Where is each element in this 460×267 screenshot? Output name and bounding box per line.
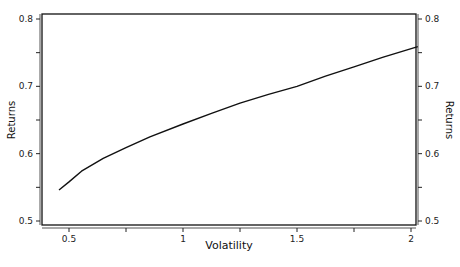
y-axis-right: 0.50.60.70.8 bbox=[418, 14, 440, 226]
y-tick-label-right: 0.6 bbox=[425, 149, 440, 159]
x-tick-label: 2 bbox=[408, 234, 414, 244]
y-tick-label-left: 0.5 bbox=[19, 216, 33, 226]
y-tick-label-left: 0.8 bbox=[19, 14, 34, 24]
y-tick-label-right: 0.5 bbox=[425, 216, 439, 226]
x-tick-label: 1 bbox=[180, 234, 186, 244]
y-tick-label-right: 0.7 bbox=[425, 81, 439, 91]
y-tick-label-right: 0.8 bbox=[425, 14, 440, 24]
y-axis-title-right: Returns bbox=[444, 101, 455, 139]
x-tick-label: 1.5 bbox=[290, 234, 304, 244]
frontier-line bbox=[59, 47, 418, 190]
plot-frame bbox=[42, 14, 416, 225]
y-tick-label-left: 0.6 bbox=[19, 149, 34, 159]
y-axis-title-left: Returns bbox=[6, 101, 17, 139]
chart-canvas: 0.511.52 0.50.60.70.8 0.50.60.70.8 Volat… bbox=[0, 0, 460, 267]
y-axis-left: 0.50.60.70.8 bbox=[19, 14, 40, 226]
x-tick-label: 0.5 bbox=[62, 234, 76, 244]
x-axis-title: Volatility bbox=[205, 239, 253, 252]
y-tick-label-left: 0.7 bbox=[19, 81, 33, 91]
